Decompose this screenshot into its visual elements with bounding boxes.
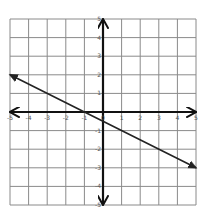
x-tick-label: 2 [138,114,142,121]
x-tick-label: 5 [194,114,198,121]
x-tick-label: 4 [175,114,179,121]
x-tick-label: -1 [81,114,87,121]
y-tick-label: 3 [97,52,101,59]
x-tick-label: -5 [7,114,13,121]
y-tick-label: -3 [95,164,101,171]
y-tick-label: -5 [95,201,101,208]
x-tick-label: -4 [26,114,32,121]
y-tick-label: 1 [97,89,101,96]
x-tick-label: 1 [120,114,124,121]
x-tick-label: -3 [44,114,50,121]
y-tick-label: -4 [95,182,101,189]
x-tick-label: 3 [157,114,161,121]
y-tick-label: 4 [97,34,101,41]
y-tick-label: -2 [95,145,101,152]
y-tick-label: 2 [97,71,101,78]
axes [11,20,195,204]
coordinate-plane: -5-4-3-2-1012345-5-4-3-2-112345 [0,0,201,211]
y-tick-label: -1 [95,127,101,134]
x-tick-label: -2 [63,114,69,121]
y-tick-label: 5 [97,15,101,22]
